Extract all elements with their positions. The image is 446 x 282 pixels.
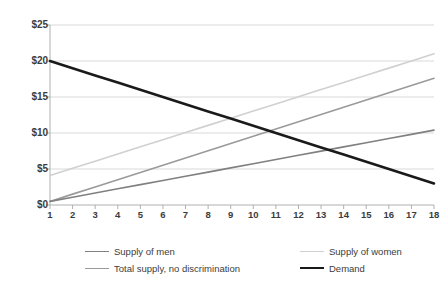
legend-label-supply-of-women: Supply of women [329,246,402,257]
x-tick-label: 6 [154,209,172,221]
series-lines [50,54,434,202]
x-tick-label: 12 [289,209,307,221]
x-tick-label: 16 [380,209,398,221]
x-tick-label: 10 [244,209,262,221]
legend-swatch-total-supply-no-discrimination [85,268,109,269]
legend-swatch-demand [300,267,324,269]
x-tick-label: 5 [131,209,149,221]
y-tick-label: $15 [4,92,48,102]
x-tick-label: 18 [425,209,443,221]
legend-item-total-supply-no-discrimination[interactable]: Total supply, no discrimination [85,261,240,275]
x-tick-label: 11 [267,209,285,221]
x-tick-label: 2 [64,209,82,221]
legend-item-supply-of-women[interactable]: Supply of women [300,244,402,258]
chart-legend: Supply of men Supply of women Total supp… [0,243,446,281]
y-tick-label: $5 [4,164,48,174]
y-axis-tick-labels: $0$5$10$15$20$25 [0,0,48,282]
series-line-supply-of-women [50,54,434,176]
x-tick-label: 4 [109,209,127,221]
legend-label-total-supply-no-discrimination: Total supply, no discrimination [114,263,240,274]
legend-item-supply-of-men[interactable]: Supply of men [85,244,175,258]
x-tick-label: 3 [86,209,104,221]
legend-item-demand[interactable]: Demand [300,261,365,275]
x-tick-label: 9 [222,209,240,221]
x-tick-label: 17 [402,209,420,221]
legend-swatch-supply-of-men [85,251,109,252]
x-tick-label: 15 [357,209,375,221]
legend-label-demand: Demand [329,263,365,274]
x-axis-tick-labels: 123456789101112131415161718 [0,209,446,225]
x-tick-label: 13 [312,209,330,221]
y-tick-label: $20 [4,56,48,66]
chart-canvas [0,0,446,282]
line-chart: $0$5$10$15$20$25 12345678910111213141516… [0,0,446,282]
y-tick-label: $10 [4,128,48,138]
x-tick-label: 7 [177,209,195,221]
x-tick-label: 8 [199,209,217,221]
x-tick-label: 1 [41,209,59,221]
x-tick-label: 14 [335,209,353,221]
y-tick-label: $25 [4,20,48,30]
legend-swatch-supply-of-women [300,251,324,252]
legend-label-supply-of-men: Supply of men [114,246,175,257]
